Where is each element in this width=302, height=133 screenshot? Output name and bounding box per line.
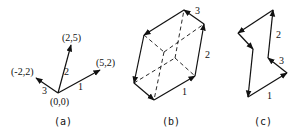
edge-top-left-arrow [144, 10, 184, 35]
hidden-edge [154, 52, 164, 100]
edge-2-label: 2 [205, 49, 210, 60]
edge-3-label: 3 [195, 5, 200, 16]
edge-3-arrow [184, 10, 204, 24]
hidden-edge [144, 35, 164, 52]
point-label-p1: (5,2) [96, 57, 115, 69]
vector-1-label: 1 [78, 81, 83, 92]
hidden-edge [164, 24, 204, 52]
edge-2-label: 2 [276, 29, 281, 40]
edge-return-1-arrow [248, 49, 253, 97]
panel-c: 1 2 3 (c) [238, 10, 287, 127]
origin-label: (0,0) [50, 96, 69, 108]
edge-1-label: 1 [182, 86, 187, 97]
edge-1-arrow [154, 76, 195, 100]
hidden-edge [175, 10, 184, 58]
vector-figure: (2,5) (5,2) (-2,2) (0,0) 3 2 1 (a) 1 2 3… [0, 0, 302, 133]
edge-2-arrow [268, 10, 273, 58]
vector-3-arrow [36, 78, 58, 93]
vector-3-label: 3 [42, 85, 47, 96]
edge-2-arrow [195, 24, 204, 76]
edge-3-label: 3 [279, 55, 284, 66]
edge-left-arrow [134, 35, 144, 83]
hidden-edge [134, 58, 175, 83]
caption-c: (c) [254, 116, 272, 127]
point-label-p2: (2,5) [62, 32, 81, 44]
panel-a: (2,5) (5,2) (-2,2) (0,0) 3 2 1 (a) [11, 32, 115, 127]
panel-b: 1 2 3 (b) [134, 5, 210, 127]
edge-3-arrow [268, 58, 287, 73]
point-label-p3: (-2,2) [11, 66, 34, 78]
hidden-edge [175, 58, 195, 76]
edge-bottom-left-arrow [134, 83, 154, 100]
vector-2-label: 2 [64, 66, 69, 77]
caption-a: (a) [54, 116, 72, 127]
caption-b: (b) [162, 116, 180, 127]
edge-return-3-arrow [238, 33, 253, 49]
edge-1-label: 1 [267, 90, 272, 101]
edge-return-2-arrow [238, 10, 273, 33]
